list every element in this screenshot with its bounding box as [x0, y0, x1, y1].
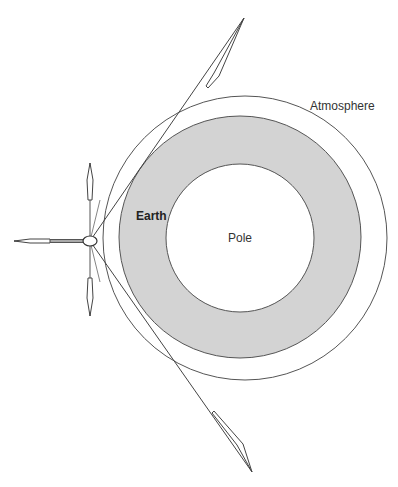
ray-line [90, 200, 100, 241]
earth-label: Earth [136, 209, 167, 223]
satellite-earth-diagram: Atmosphere Earth Pole [0, 0, 398, 487]
atmosphere-label: Atmosphere [310, 99, 375, 113]
down-arrow-icon [87, 278, 93, 316]
ray-line [90, 241, 100, 282]
satellite-icon [83, 236, 97, 246]
pole-label: Pole [228, 231, 252, 245]
left-arrow-icon [14, 239, 50, 243]
upper-arrowhead-icon [206, 18, 244, 88]
up-arrow-icon [87, 163, 93, 200]
